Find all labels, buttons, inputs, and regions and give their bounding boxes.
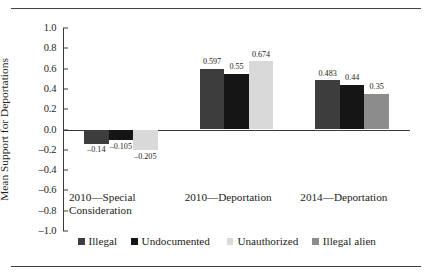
y-axis-tick-mark bbox=[63, 231, 68, 232]
legend-item[interactable]: Illegal alien bbox=[312, 236, 376, 247]
y-axis-tick-label: –0.2 bbox=[39, 145, 63, 156]
legend-item[interactable]: Illegal bbox=[78, 236, 117, 247]
legend-label: Undocumented bbox=[142, 236, 210, 247]
y-axis-tick-mark bbox=[63, 210, 68, 211]
legend-item[interactable]: Unauthorized bbox=[227, 236, 298, 247]
y-axis-tick-mark bbox=[63, 149, 68, 150]
y-axis-tick-label: 0.2 bbox=[44, 104, 63, 115]
y-axis-tick-label: 0.6 bbox=[44, 63, 63, 74]
y-axis-tick-mark bbox=[63, 28, 68, 29]
x-axis-category-label: 2014—Deportation bbox=[300, 191, 426, 205]
y-axis-tick-mark bbox=[63, 170, 68, 171]
chart-legend: IllegalUndocumentedUnauthorizedIllegal a… bbox=[78, 236, 376, 247]
y-axis-tick-label: 0.8 bbox=[44, 43, 63, 54]
legend-swatch-icon bbox=[78, 238, 85, 245]
figure: Mean Support for Deportations 1.00.80.60… bbox=[0, 0, 432, 276]
bar-value-label: 0.44 bbox=[331, 74, 374, 82]
legend-label: Unauthorized bbox=[237, 236, 298, 247]
y-axis-tick-mark bbox=[63, 190, 68, 191]
legend-item[interactable]: Undocumented bbox=[131, 236, 210, 247]
y-axis-title: Mean Support for Deportations bbox=[0, 28, 12, 231]
bar bbox=[315, 80, 340, 129]
bar bbox=[109, 130, 134, 141]
y-axis-tick-mark bbox=[63, 129, 68, 130]
bar-value-label: –0.205 bbox=[124, 153, 167, 161]
legend-swatch-icon bbox=[312, 238, 319, 245]
y-axis-tick-label: 1.0 bbox=[44, 23, 63, 34]
plot-area: 1.00.80.60.40.20.0–0.2–0.4–0.6–0.8–1.0 –… bbox=[63, 28, 410, 231]
bar bbox=[200, 69, 225, 130]
legend-swatch-icon bbox=[227, 238, 234, 245]
legend-label: Illegal alien bbox=[323, 236, 376, 247]
y-axis-tick-mark bbox=[63, 109, 68, 110]
y-axis-tick-label: –0.4 bbox=[39, 165, 63, 176]
bar bbox=[224, 74, 249, 130]
legend-swatch-icon bbox=[131, 238, 138, 245]
y-axis-tick-mark bbox=[63, 48, 68, 49]
bottom-divider-rule bbox=[11, 266, 421, 267]
bar bbox=[84, 130, 109, 144]
y-axis-tick-mark bbox=[63, 88, 68, 89]
y-axis-tick-mark bbox=[63, 68, 68, 69]
bar bbox=[133, 130, 158, 151]
y-axis-tick-label: –0.8 bbox=[39, 205, 63, 216]
legend-label: Illegal bbox=[89, 236, 118, 247]
bar-value-label: 0.674 bbox=[240, 51, 283, 59]
bar-value-label: 0.35 bbox=[355, 83, 398, 91]
x-axis-category-label: 2010—Deportation bbox=[185, 191, 311, 205]
bar bbox=[364, 94, 389, 130]
y-axis-tick-label: –0.6 bbox=[39, 185, 63, 196]
y-axis-tick-label: 0.4 bbox=[44, 84, 63, 95]
y-axis-tick-label: –1.0 bbox=[39, 226, 63, 237]
bar bbox=[249, 61, 274, 129]
y-axis-tick-label: 0.0 bbox=[44, 124, 63, 135]
x-axis-category-label: 2010—Special Consideration bbox=[69, 191, 195, 218]
top-divider-rule bbox=[11, 8, 421, 9]
